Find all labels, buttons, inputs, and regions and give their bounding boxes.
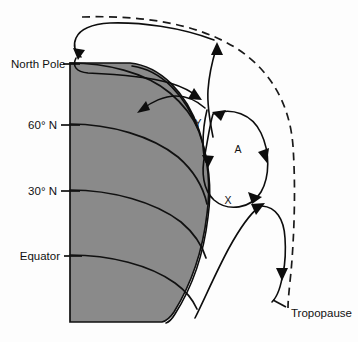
label-30n: 30° N	[28, 185, 57, 197]
hadley-upper-descend	[262, 206, 285, 274]
hadley-cell-flow	[195, 203, 288, 318]
ferrel-cell-loop	[203, 111, 268, 207]
ferrel-cell-a-flow	[203, 110, 269, 207]
arrowhead-polar-descend	[73, 48, 85, 60]
polar-front-rising-limb	[208, 49, 216, 137]
marker-x: X	[224, 194, 231, 206]
marker-y: Y	[194, 117, 201, 129]
arrowhead-ferrel-top	[212, 110, 226, 121]
label-60n: 60° N	[28, 119, 57, 131]
arrowhead-polar-front-rise	[211, 42, 223, 55]
circulation-diagram-svg: North Pole 60° N 30° N Equator Tropopaus…	[0, 0, 358, 342]
earth-surface-shape	[70, 63, 209, 322]
diagram-canvas: North Pole 60° N 30° N Equator Tropopaus…	[0, 0, 358, 342]
polar-cell-upper-branch	[75, 23, 214, 57]
label-tropopause: Tropopause	[291, 307, 352, 319]
marker-a: A	[234, 143, 241, 155]
earth-globe	[70, 63, 209, 322]
label-equator: Equator	[20, 250, 60, 262]
tropopause-leader	[273, 300, 286, 307]
label-north-pole: North Pole	[11, 58, 65, 70]
